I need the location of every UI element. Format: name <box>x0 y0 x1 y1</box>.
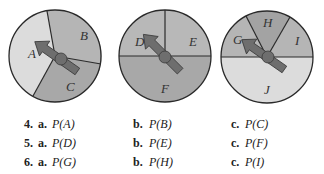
section-label-d: D <box>134 34 145 49</box>
part-a-label: a. <box>38 136 47 151</box>
spinner-figures: A B C D E F G H I J <box>0 0 324 110</box>
section-label-e: E <box>188 34 197 49</box>
exercise-row-6: 6. a. P(G) b. P(H) c. P(I) <box>0 155 324 173</box>
part-b-label: b. <box>133 136 143 151</box>
part-b-label: b. <box>133 117 143 132</box>
section-label-h: H <box>262 15 273 30</box>
part-b-expression: P(E) <box>149 136 172 151</box>
exercise-row-5: 5. a. P(D) b. P(E) c. P(F) <box>0 136 324 154</box>
spinner-def: D E F <box>119 10 211 102</box>
section-label-f: F <box>160 81 170 96</box>
section-label-i: I <box>294 33 300 48</box>
part-c-expression: P(I) <box>245 155 264 170</box>
part-a-expression: P(D) <box>52 136 76 151</box>
part-a-expression: P(A) <box>52 117 75 132</box>
spinner-ghij: G H I J <box>221 11 313 103</box>
part-a-label: a. <box>38 117 47 132</box>
section-label-b: B <box>80 28 88 43</box>
section-label-c: C <box>66 79 75 94</box>
part-b-expression: P(B) <box>149 117 172 132</box>
exercise-number: 6. <box>24 155 33 170</box>
spinner-abc: A B C <box>9 10 102 102</box>
exercise-row-4: 4. a. P(A) b. P(B) c. P(C) <box>0 117 324 135</box>
part-c-label: c. <box>231 136 239 151</box>
part-b-expression: P(H) <box>149 155 173 170</box>
part-a-label: a. <box>38 155 47 170</box>
part-b-label: b. <box>133 155 143 170</box>
part-a-expression: P(G) <box>52 155 76 170</box>
exercise-number: 5. <box>24 136 33 151</box>
exercise-number: 4. <box>24 117 33 132</box>
part-c-expression: P(F) <box>245 136 268 151</box>
part-c-expression: P(C) <box>245 117 268 132</box>
section-label-g: G <box>233 32 243 47</box>
section-label-a: A <box>27 46 36 61</box>
part-c-label: c. <box>231 117 239 132</box>
part-c-label: c. <box>231 155 239 170</box>
